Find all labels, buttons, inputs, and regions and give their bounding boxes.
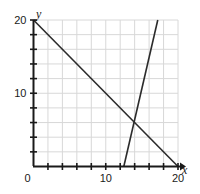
chart-background — [0, 0, 200, 194]
y-axis-label: y — [35, 7, 42, 21]
origin-label: 0 — [24, 172, 30, 184]
y-tick-label: 20 — [14, 14, 26, 26]
y-tick-label: 10 — [14, 87, 26, 99]
x-tick-label: 10 — [100, 172, 112, 184]
coordinate-plane-chart: 010201020 y x — [0, 0, 200, 194]
x-axis-label: x — [181, 163, 188, 177]
